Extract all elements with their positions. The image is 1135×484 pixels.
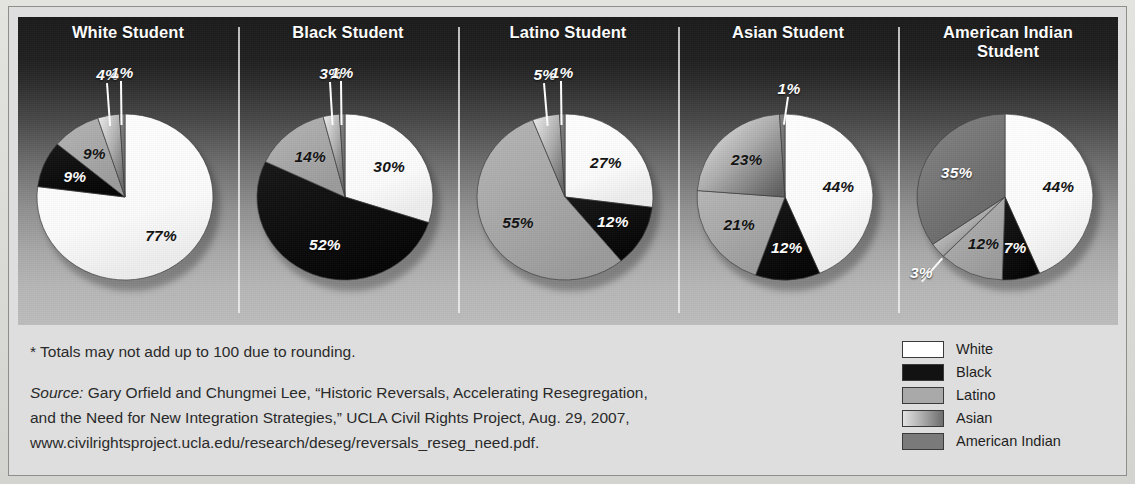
pie-body [36, 113, 214, 281]
legend-label: American Indian [956, 433, 1061, 449]
legend-item: Asian [902, 407, 1112, 429]
panel-title-line1: Asian Student [678, 23, 898, 42]
slice-label-black: 7% [1004, 239, 1027, 257]
slice-label-american-indian: 35% [941, 164, 973, 182]
slice-label-latino: 21% [723, 216, 755, 234]
slice-label-american-indian: 1% [111, 64, 134, 82]
slice-label-white: 77% [145, 227, 177, 245]
source-line-2: and the Need for New Integration Strateg… [30, 405, 890, 430]
slice-label-white: 44% [823, 178, 855, 196]
slice-label-black: 52% [309, 236, 341, 254]
slice-label-asian: 23% [731, 151, 763, 169]
slice-label-black: 12% [597, 213, 629, 231]
pie-body [256, 113, 434, 281]
chart-figure: White Student 77%9%9%4%1%Black Student [0, 0, 1135, 484]
rounding-note: * Totals may not add up to 100 due to ro… [30, 342, 355, 362]
legend-item: Latino [902, 384, 1112, 406]
panel-title: Asian Student [678, 23, 898, 42]
slice-label-white: 30% [373, 158, 405, 176]
label-leader-line [121, 81, 123, 125]
legend: WhiteBlackLatinoAsianAmerican Indian [902, 338, 1112, 453]
pie-panel-asian-student: Asian Student 44%12%21%23%1% [678, 17, 898, 325]
source-line-1: Source: Gary Orfield and Chungmei Lee, “… [30, 380, 890, 405]
slice-label-latino: 12% [968, 235, 1000, 253]
legend-item: White [902, 338, 1112, 360]
slice-label-latino: 55% [502, 214, 534, 232]
pie-panel-black-student: Black Student 30%52%14%3%1% [238, 17, 458, 325]
label-leader-line [341, 81, 343, 125]
slice-label-latino: 14% [294, 148, 326, 166]
pie-chart: 30%52%14%3%1% [256, 113, 440, 291]
legend-swatch-black [902, 364, 944, 381]
pie-panel-american-indian: American IndianStudent 44%7%12%3%35% [898, 17, 1118, 325]
panel-title-line2: Student [898, 42, 1118, 61]
legend-swatch-american-indian [902, 433, 944, 450]
slice-label-american-indian: 1% [778, 80, 801, 98]
source-line-3: www.civilrightsproject.ucla.edu/research… [30, 430, 890, 455]
slice-label-american-indian: 1% [331, 64, 354, 82]
legend-label: Latino [956, 387, 996, 403]
panel-title: Black Student [238, 23, 458, 42]
legend-label: Black [956, 364, 991, 380]
panel-title-line1: American Indian [898, 23, 1118, 42]
pie-chart: 44%7%12%3%35% [916, 113, 1100, 291]
slice-label-white: 44% [1043, 178, 1075, 196]
panel-title-line1: Latino Student [458, 23, 678, 42]
panel-title-line1: White Student [18, 23, 238, 42]
pie-chart: 44%12%21%23%1% [696, 113, 880, 291]
legend-swatch-latino [902, 387, 944, 404]
panel-title-line1: Black Student [238, 23, 458, 42]
slice-label-latino: 9% [83, 145, 106, 163]
slice-label-black: 12% [771, 239, 803, 257]
label-leader-line [561, 81, 563, 125]
pie-body [476, 113, 654, 281]
legend-swatch-white [902, 341, 944, 358]
source-text-1: Gary Orfield and Chungmei Lee, “Historic… [83, 384, 647, 401]
pie-panel-latino-student: Latino Student 27%12%55%5%1% [458, 17, 678, 325]
panel-title: White Student [18, 23, 238, 42]
source-label: Source: [30, 384, 83, 401]
pie-chart: 27%12%55%5%1% [476, 113, 660, 291]
slice-label-white: 27% [590, 154, 622, 172]
panel-title: American IndianStudent [898, 23, 1118, 61]
legend-item: American Indian [902, 430, 1112, 452]
panel-title: Latino Student [458, 23, 678, 42]
slice-label-black: 9% [64, 168, 87, 186]
legend-swatch-asian [902, 410, 944, 427]
legend-label: White [956, 341, 993, 357]
pie-panels: White Student 77%9%9%4%1%Black Student [18, 17, 1118, 325]
slice-label-american-indian: 1% [551, 64, 574, 82]
legend-item: Black [902, 361, 1112, 383]
legend-label: Asian [956, 410, 992, 426]
pie-panel-white-student: White Student 77%9%9%4%1% [18, 17, 238, 325]
slice-label-asian: 3% [910, 264, 933, 282]
source-citation: Source: Gary Orfield and Chungmei Lee, “… [30, 380, 890, 455]
pie-charts-band: White Student 77%9%9%4%1%Black Student [18, 17, 1118, 325]
pie-chart: 77%9%9%4%1% [36, 113, 220, 291]
